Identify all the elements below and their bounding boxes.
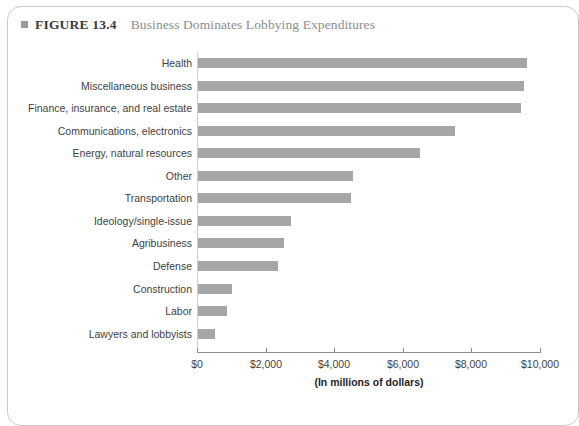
- bar: [198, 329, 215, 339]
- bar: [198, 216, 291, 226]
- bar: [198, 238, 284, 248]
- bar: [198, 306, 227, 316]
- x-axis-tick: [266, 348, 267, 352]
- x-axis-tick: [334, 348, 335, 352]
- x-axis-tick-label: $2,000: [250, 358, 282, 370]
- category-label: Ideology/single-issue: [94, 216, 192, 227]
- category-label: Health: [162, 58, 192, 69]
- bar: [198, 148, 420, 158]
- x-axis-title: (In millions of dollars): [314, 376, 423, 388]
- category-label: Agribusiness: [132, 238, 192, 249]
- bar: [198, 103, 521, 113]
- bar: [198, 126, 455, 136]
- x-axis-tick-label: $4,000: [318, 358, 350, 370]
- category-label: Other: [166, 171, 192, 182]
- bar: [198, 284, 232, 294]
- x-axis-tick-label: $8,000: [455, 358, 487, 370]
- category-label: Finance, insurance, and real estate: [28, 103, 192, 114]
- category-label: Transportation: [125, 193, 192, 204]
- category-label: Construction: [133, 284, 192, 295]
- category-label: Communications, electronics: [58, 126, 192, 137]
- x-axis-tick-label: $0: [191, 358, 203, 370]
- category-label: Defense: [153, 261, 192, 272]
- bar: [198, 58, 527, 68]
- x-axis-tick-label: $6,000: [387, 358, 419, 370]
- category-label: Lawyers and lobbyists: [89, 329, 192, 340]
- x-axis-tick-label: $10,000: [521, 358, 559, 370]
- bar: [198, 171, 353, 181]
- x-axis-line: [197, 352, 541, 353]
- category-label: Energy, natural resources: [73, 148, 192, 159]
- bar: [198, 193, 351, 203]
- bar: [198, 261, 278, 271]
- x-axis-tick: [540, 348, 541, 352]
- x-axis-tick: [197, 348, 198, 352]
- category-label: Miscellaneous business: [81, 81, 192, 92]
- x-axis-tick: [471, 348, 472, 352]
- bar: [198, 81, 524, 91]
- x-axis-tick: [403, 348, 404, 352]
- category-label: Labor: [165, 306, 192, 317]
